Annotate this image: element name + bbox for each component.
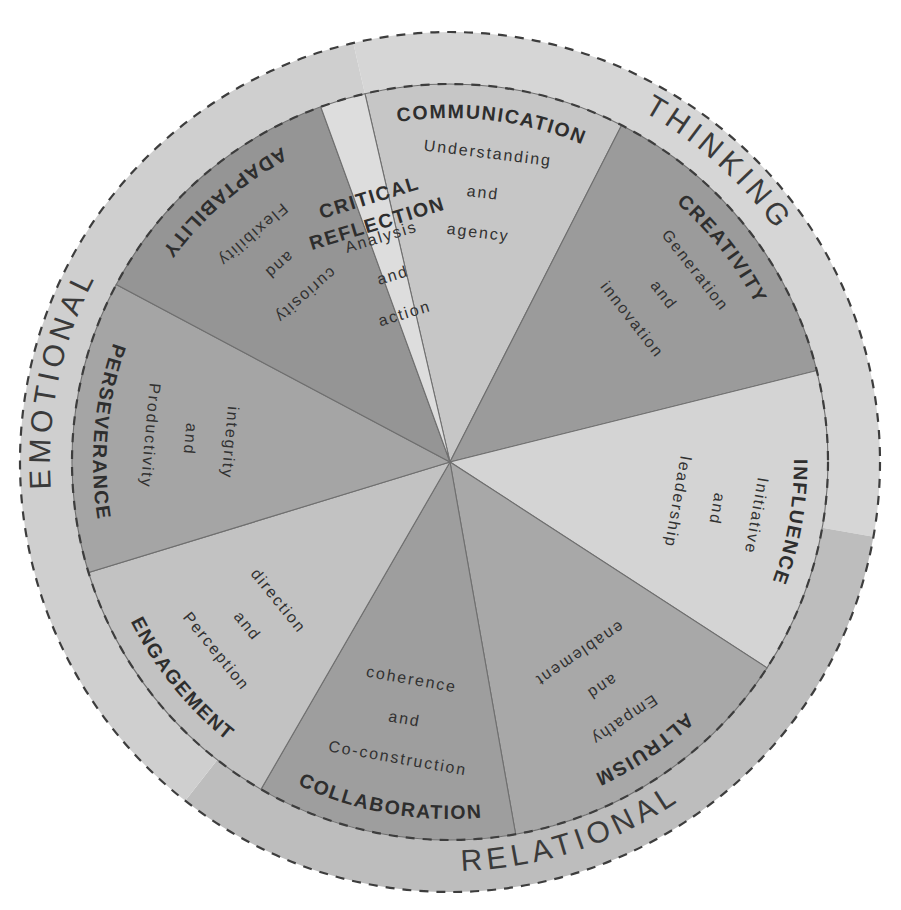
- segment-description-line: and: [181, 422, 201, 456]
- wheel-canvas: THINKINGRELATIONALEMOTIONAL COMMUNICATIO…: [0, 0, 901, 910]
- competency-wheel-diagram: THINKINGRELATIONALEMOTIONAL COMMUNICATIO…: [0, 0, 901, 910]
- segment-layer: [72, 84, 828, 840]
